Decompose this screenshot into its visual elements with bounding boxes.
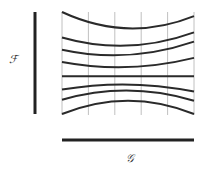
horizontal-axis-label: 𝒢 xyxy=(126,152,136,165)
curve xyxy=(62,32,194,45)
curve xyxy=(62,12,194,28)
curve xyxy=(62,42,194,56)
curve xyxy=(62,91,194,101)
curve-family xyxy=(62,12,194,114)
vertical-axis-label: ℱ xyxy=(9,53,20,66)
curve xyxy=(62,58,194,67)
curve xyxy=(62,101,194,114)
curve-family-diagram: ℱ 𝒢 xyxy=(0,0,206,171)
